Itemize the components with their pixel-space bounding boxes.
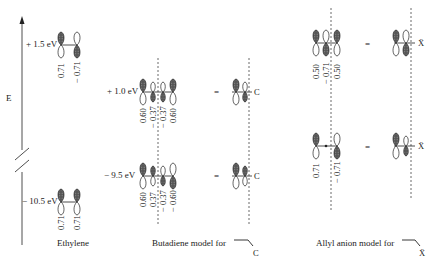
energy-label: + 1.5 eV [26,39,58,49]
svg-text:=: = [365,142,370,152]
svg-text:0.50: 0.50 [311,64,321,79]
energy-label: − 10.5 eV [22,196,58,206]
svg-text:− 0.60: − 0.60 [168,190,178,212]
svg-text:− 0.37: − 0.37 [148,106,158,128]
arrow-up-icon [20,16,25,24]
svg-text:− 0.71: − 0.71 [321,62,331,84]
svg-text:Allyl anion model for: Allyl anion model for [316,238,394,248]
allyl-lower-model: Ẍ [393,133,424,159]
butadiene-lower-model: C [232,163,260,189]
butadiene-upper-orbital: + 1.0 eV 0.60 − 0.37 − 0.37 0.60 [107,79,178,128]
svg-text:C: C [253,248,259,258]
ethylene-caption: Ethylene [57,238,89,248]
svg-text:C: C [254,87,260,97]
svg-text:− 0.71: − 0.71 [72,61,82,83]
svg-text:0.60: 0.60 [138,192,148,207]
svg-text:0.60: 0.60 [168,108,178,123]
svg-text:=: = [214,87,219,97]
svg-text:− 0.71: − 0.71 [332,161,342,183]
svg-text:C: C [254,171,260,181]
ethylene-upper-orbital: + 1.5 eV 0.71 − 0.71 [26,32,82,83]
ethylene-lower-orbital: − 10.5 eV 0.71 0.71 [22,189,82,230]
svg-text:− 0.37: − 0.37 [158,190,168,212]
axis-label: E [6,93,12,103]
svg-text:=: = [214,171,219,181]
butadiene-caption: Butadiene model for C [152,238,259,258]
allyl-caption: Allyl anion model for Ẍ [316,238,425,258]
svg-text:=: = [365,39,370,49]
svg-text:0.71: 0.71 [56,215,66,230]
svg-text:0.71: 0.71 [56,63,66,78]
svg-text:0.71: 0.71 [311,163,321,178]
orbital-diagram: E + 1.5 eV 0.71 − 0.71 − 10.5 eV 0.71 0.… [0,0,436,265]
svg-text:Butadiene model for: Butadiene model for [152,238,226,248]
allyl-upper-orbital: 0.50 − 0.71 0.50 [311,30,342,84]
svg-text:0.37: 0.37 [148,192,158,207]
butadiene-upper-model: C [232,79,260,105]
energy-axis: E [6,16,30,245]
svg-text:Ẍ: Ẍ [419,248,425,258]
allyl-upper-model: Ẍ [393,30,424,56]
svg-text:− 0.37: − 0.37 [158,106,168,128]
svg-text:0.60: 0.60 [138,108,148,123]
allyl-lower-orbital: 0.71 − 0.71 [311,133,342,183]
butadiene-lower-orbital: − 9.5 eV 0.60 0.37 − 0.37 − 0.60 [104,163,178,212]
svg-text:− 9.5 eV: − 9.5 eV [104,170,136,180]
svg-text:Ẍ: Ẍ [418,38,424,48]
svg-text:+ 1.0 eV: + 1.0 eV [107,86,139,96]
svg-text:0.71: 0.71 [72,215,82,230]
svg-text:0.50: 0.50 [332,64,342,79]
svg-text:Ẍ: Ẍ [418,141,424,151]
